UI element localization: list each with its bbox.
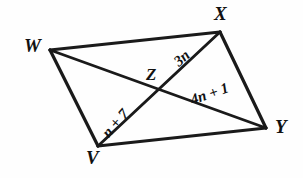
- vertex-label-v: V: [86, 148, 99, 167]
- side-WX: [50, 32, 220, 50]
- vertex-label-w: W: [24, 36, 41, 55]
- vertex-label-x: X: [214, 4, 227, 23]
- side-YV: [98, 128, 266, 146]
- parallelogram-diagonals: [50, 32, 266, 146]
- vertex-label-y: Y: [275, 117, 287, 136]
- geometry-figure: W X Y V Z 3n 4n + 1 n + 7: [0, 0, 303, 178]
- figure-canvas: [0, 0, 303, 178]
- vertex-label-z: Z: [146, 66, 156, 83]
